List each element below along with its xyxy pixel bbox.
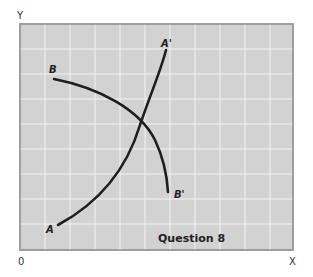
origin-label: 0	[18, 256, 24, 267]
diagram-canvas: B B' A A' Question 8 Y X 0	[0, 0, 313, 277]
x-axis-label: X	[289, 256, 296, 267]
label-b: B	[49, 64, 57, 75]
label-a-prime: A'	[160, 38, 172, 49]
plot-area	[20, 24, 293, 250]
label-a: A	[45, 224, 54, 235]
label-b-prime: B'	[174, 189, 185, 200]
y-axis-label: Y	[16, 10, 24, 21]
caption: Question 8	[158, 232, 225, 245]
